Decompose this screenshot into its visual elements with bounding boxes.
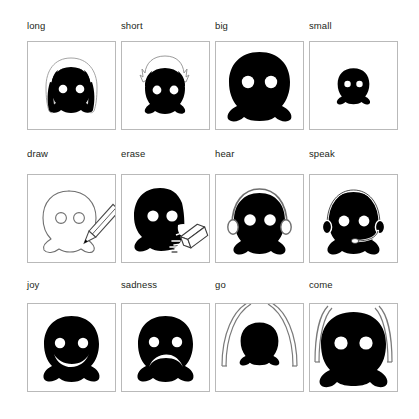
blob-frowning-icon [121,303,210,392]
blob-eraser-icon [121,174,210,263]
grid-cell-go[interactable]: go [215,274,309,404]
grid-cell-hear[interactable]: hear [215,144,309,274]
grid-cell-small[interactable]: small [309,14,403,144]
cell-label: go [215,279,226,290]
cell-label: hear [215,148,234,159]
cell-label: long [27,20,45,31]
blob-approaching-icon [309,303,398,392]
blob-outline-pencil-icon [27,174,116,263]
icon-grid: long short [27,14,403,394]
cell-label: draw [27,148,48,159]
grid-cell-speak[interactable]: speak [309,144,403,274]
cell-label: come [309,279,333,290]
cell-label: joy [27,279,39,290]
blob-headphones-icon [215,174,304,263]
grid-cell-long[interactable]: long [27,14,121,144]
cell-label: erase [121,148,145,159]
grid-cell-short[interactable]: short [121,14,215,144]
cell-label: small [309,20,332,31]
grid-cell-come[interactable]: come [309,274,403,404]
cell-label: sadness [121,279,157,290]
grid-cell-draw[interactable]: draw [27,144,121,274]
blob-long-hair-icon [27,41,116,130]
blob-short-hair-icon [121,41,210,130]
figure-sheet: long short [0,0,419,419]
grid-cell-sadness[interactable]: sadness [121,274,215,404]
blob-headset-microphone-icon [309,174,398,263]
grid-cell-joy[interactable]: joy [27,274,121,404]
cell-label: short [121,20,143,31]
blob-small-icon [309,41,398,130]
cell-label: speak [309,148,335,159]
cell-label: big [215,20,228,31]
blob-receding-icon [215,303,304,392]
blob-big-icon [215,41,304,130]
grid-cell-erase[interactable]: erase [121,144,215,274]
blob-smiling-icon [27,303,116,392]
grid-cell-big[interactable]: big [215,14,309,144]
